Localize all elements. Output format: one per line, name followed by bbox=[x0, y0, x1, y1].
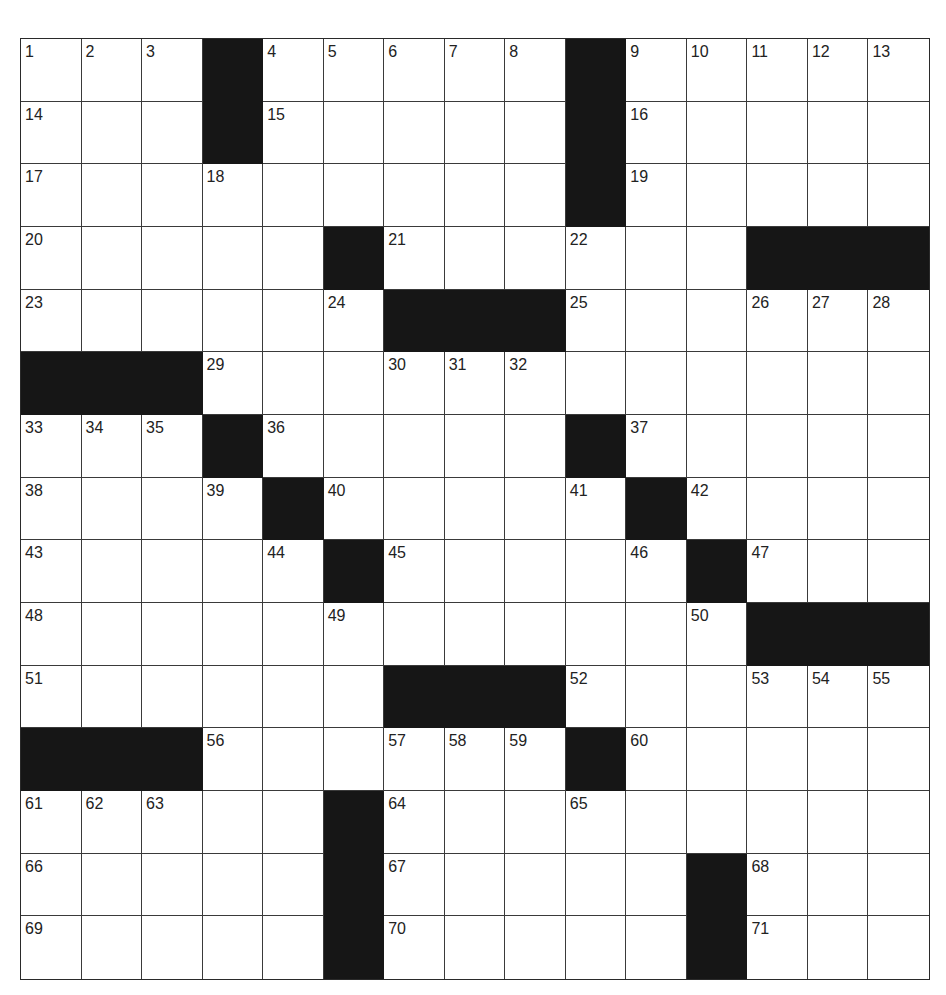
answer-cell[interactable] bbox=[263, 666, 324, 729]
answer-cell[interactable] bbox=[808, 478, 869, 541]
answer-cell[interactable] bbox=[384, 415, 445, 478]
answer-cell[interactable] bbox=[142, 227, 203, 290]
answer-cell[interactable]: 18 bbox=[203, 164, 264, 227]
answer-cell[interactable] bbox=[868, 164, 929, 227]
answer-cell[interactable] bbox=[808, 916, 869, 979]
answer-cell[interactable] bbox=[324, 415, 385, 478]
answer-cell[interactable]: 14 bbox=[21, 102, 82, 165]
answer-cell[interactable]: 38 bbox=[21, 478, 82, 541]
answer-cell[interactable]: 52 bbox=[566, 666, 627, 729]
answer-cell[interactable]: 7 bbox=[445, 39, 506, 102]
answer-cell[interactable]: 48 bbox=[21, 603, 82, 666]
answer-cell[interactable] bbox=[626, 290, 687, 353]
answer-cell[interactable]: 62 bbox=[82, 791, 143, 854]
answer-cell[interactable]: 17 bbox=[21, 164, 82, 227]
answer-cell[interactable] bbox=[626, 666, 687, 729]
answer-cell[interactable] bbox=[82, 478, 143, 541]
answer-cell[interactable] bbox=[324, 164, 385, 227]
answer-cell[interactable] bbox=[142, 102, 203, 165]
answer-cell[interactable]: 5 bbox=[324, 39, 385, 102]
answer-cell[interactable] bbox=[808, 791, 869, 854]
answer-cell[interactable] bbox=[868, 102, 929, 165]
answer-cell[interactable] bbox=[263, 352, 324, 415]
answer-cell[interactable] bbox=[868, 478, 929, 541]
answer-cell[interactable] bbox=[445, 478, 506, 541]
answer-cell[interactable] bbox=[566, 540, 627, 603]
answer-cell[interactable] bbox=[505, 102, 566, 165]
answer-cell[interactable]: 30 bbox=[384, 352, 445, 415]
answer-cell[interactable] bbox=[747, 478, 808, 541]
answer-cell[interactable] bbox=[505, 415, 566, 478]
answer-cell[interactable]: 39 bbox=[203, 478, 264, 541]
answer-cell[interactable] bbox=[324, 666, 385, 729]
answer-cell[interactable] bbox=[687, 227, 748, 290]
answer-cell[interactable]: 42 bbox=[687, 478, 748, 541]
answer-cell[interactable]: 6 bbox=[384, 39, 445, 102]
answer-cell[interactable]: 68 bbox=[747, 854, 808, 917]
answer-cell[interactable]: 10 bbox=[687, 39, 748, 102]
answer-cell[interactable] bbox=[445, 916, 506, 979]
answer-cell[interactable] bbox=[566, 854, 627, 917]
answer-cell[interactable] bbox=[626, 854, 687, 917]
answer-cell[interactable]: 59 bbox=[505, 728, 566, 791]
answer-cell[interactable] bbox=[747, 791, 808, 854]
answer-cell[interactable]: 65 bbox=[566, 791, 627, 854]
answer-cell[interactable]: 26 bbox=[747, 290, 808, 353]
answer-cell[interactable]: 27 bbox=[808, 290, 869, 353]
answer-cell[interactable] bbox=[203, 603, 264, 666]
answer-cell[interactable]: 32 bbox=[505, 352, 566, 415]
answer-cell[interactable] bbox=[82, 916, 143, 979]
answer-cell[interactable] bbox=[808, 164, 869, 227]
answer-cell[interactable] bbox=[142, 164, 203, 227]
answer-cell[interactable] bbox=[142, 478, 203, 541]
answer-cell[interactable] bbox=[868, 728, 929, 791]
answer-cell[interactable]: 37 bbox=[626, 415, 687, 478]
answer-cell[interactable]: 55 bbox=[868, 666, 929, 729]
answer-cell[interactable] bbox=[445, 102, 506, 165]
answer-cell[interactable] bbox=[566, 603, 627, 666]
answer-cell[interactable] bbox=[626, 227, 687, 290]
answer-cell[interactable]: 64 bbox=[384, 791, 445, 854]
answer-cell[interactable] bbox=[566, 916, 627, 979]
answer-cell[interactable] bbox=[445, 540, 506, 603]
answer-cell[interactable] bbox=[505, 478, 566, 541]
answer-cell[interactable]: 71 bbox=[747, 916, 808, 979]
answer-cell[interactable] bbox=[324, 728, 385, 791]
answer-cell[interactable] bbox=[82, 666, 143, 729]
answer-cell[interactable]: 41 bbox=[566, 478, 627, 541]
answer-cell[interactable] bbox=[263, 164, 324, 227]
answer-cell[interactable]: 33 bbox=[21, 415, 82, 478]
answer-cell[interactable] bbox=[747, 164, 808, 227]
answer-cell[interactable] bbox=[687, 666, 748, 729]
answer-cell[interactable] bbox=[82, 227, 143, 290]
answer-cell[interactable] bbox=[142, 540, 203, 603]
answer-cell[interactable]: 54 bbox=[808, 666, 869, 729]
answer-cell[interactable] bbox=[445, 854, 506, 917]
answer-cell[interactable] bbox=[687, 102, 748, 165]
answer-cell[interactable] bbox=[868, 540, 929, 603]
answer-cell[interactable]: 60 bbox=[626, 728, 687, 791]
answer-cell[interactable]: 40 bbox=[324, 478, 385, 541]
answer-cell[interactable]: 8 bbox=[505, 39, 566, 102]
answer-cell[interactable] bbox=[445, 227, 506, 290]
answer-cell[interactable] bbox=[687, 290, 748, 353]
answer-cell[interactable] bbox=[626, 916, 687, 979]
answer-cell[interactable]: 35 bbox=[142, 415, 203, 478]
answer-cell[interactable]: 47 bbox=[747, 540, 808, 603]
answer-cell[interactable]: 46 bbox=[626, 540, 687, 603]
answer-cell[interactable] bbox=[747, 415, 808, 478]
answer-cell[interactable] bbox=[142, 916, 203, 979]
answer-cell[interactable] bbox=[203, 854, 264, 917]
answer-cell[interactable]: 13 bbox=[868, 39, 929, 102]
answer-cell[interactable]: 28 bbox=[868, 290, 929, 353]
answer-cell[interactable]: 24 bbox=[324, 290, 385, 353]
answer-cell[interactable]: 53 bbox=[747, 666, 808, 729]
answer-cell[interactable]: 34 bbox=[82, 415, 143, 478]
answer-cell[interactable] bbox=[808, 415, 869, 478]
answer-cell[interactable] bbox=[687, 791, 748, 854]
answer-cell[interactable]: 16 bbox=[626, 102, 687, 165]
answer-cell[interactable]: 61 bbox=[21, 791, 82, 854]
answer-cell[interactable] bbox=[505, 227, 566, 290]
answer-cell[interactable] bbox=[82, 164, 143, 227]
answer-cell[interactable] bbox=[384, 478, 445, 541]
